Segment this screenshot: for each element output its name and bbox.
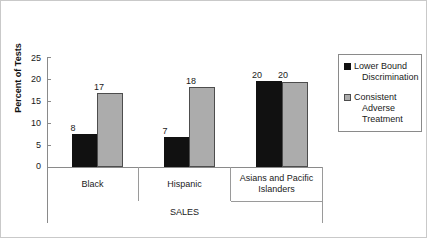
legend-label-consistent: Consistent Adverse Treatment [354,92,403,125]
group-label-row: SALES [47,201,323,223]
bar-value-asian-consistent: 20 [271,70,295,80]
y-tick-label-0: 0 [25,162,41,171]
bar-value-hispanic-consistent: 18 [179,76,203,86]
chart-legend: Lower Bound Discrimination Consistent Ad… [338,54,422,132]
chart-container: Percent of Tests 25 20 15 10 5 0 8 17 7 … [0,0,427,238]
dark-square-swatch-icon [344,63,351,70]
category-label-asians: Asians and Pacific Islanders [240,173,314,195]
legend-item-consistent: Consistent Adverse Treatment [344,92,417,125]
category-cell-black: Black [47,167,139,201]
bar-value-black-consistent: 17 [87,82,111,92]
group-label-sales: SALES [170,207,199,217]
category-cell-hispanic: Hispanic [139,167,231,201]
y-tick-label-15: 15 [25,97,41,106]
bar-black-consistent [97,93,123,167]
category-label-asians-line2: Islanders [258,184,295,194]
bar-hispanic-consistent [189,87,215,167]
category-row: Black Hispanic Asians and Pacific Island… [47,167,323,201]
y-axis-title: Percent of Tests [13,33,23,123]
y-tick-label-20: 20 [25,75,41,84]
y-tick-label-10: 10 [25,119,41,128]
bar-value-asian-lower-bound: 20 [245,70,269,80]
bar-value-hispanic-lower-bound: 7 [153,126,177,136]
legend-label-consistent-line1: Consistent [354,92,397,102]
bar-black-lower-bound [72,134,97,167]
category-cell-asians: Asians and Pacific Islanders [231,167,323,201]
bar-asian-lower-bound [256,81,282,167]
legend-label-lower-bound-line2: Discrimination [354,72,419,83]
bar-hispanic-lower-bound [164,137,189,167]
category-label-hispanic: Hispanic [167,179,202,190]
legend-label-consistent-line3: Treatment [354,114,403,125]
bar-asian-consistent [282,82,308,167]
light-square-swatch-icon [344,94,351,101]
y-tick-label-5: 5 [25,141,41,150]
category-label-black: Black [81,179,103,190]
legend-item-lower-bound: Lower Bound Discrimination [344,61,417,83]
legend-label-consistent-line2: Adverse [354,103,403,114]
category-label-asians-line1: Asians and Pacific [240,173,314,183]
y-tick-label-25: 25 [25,54,41,63]
category-axis-table: Black Hispanic Asians and Pacific Island… [47,167,323,223]
bar-value-black-lower-bound: 8 [61,123,85,133]
legend-label-lower-bound-line1: Lower Bound [354,61,407,71]
legend-label-lower-bound: Lower Bound Discrimination [354,61,419,83]
